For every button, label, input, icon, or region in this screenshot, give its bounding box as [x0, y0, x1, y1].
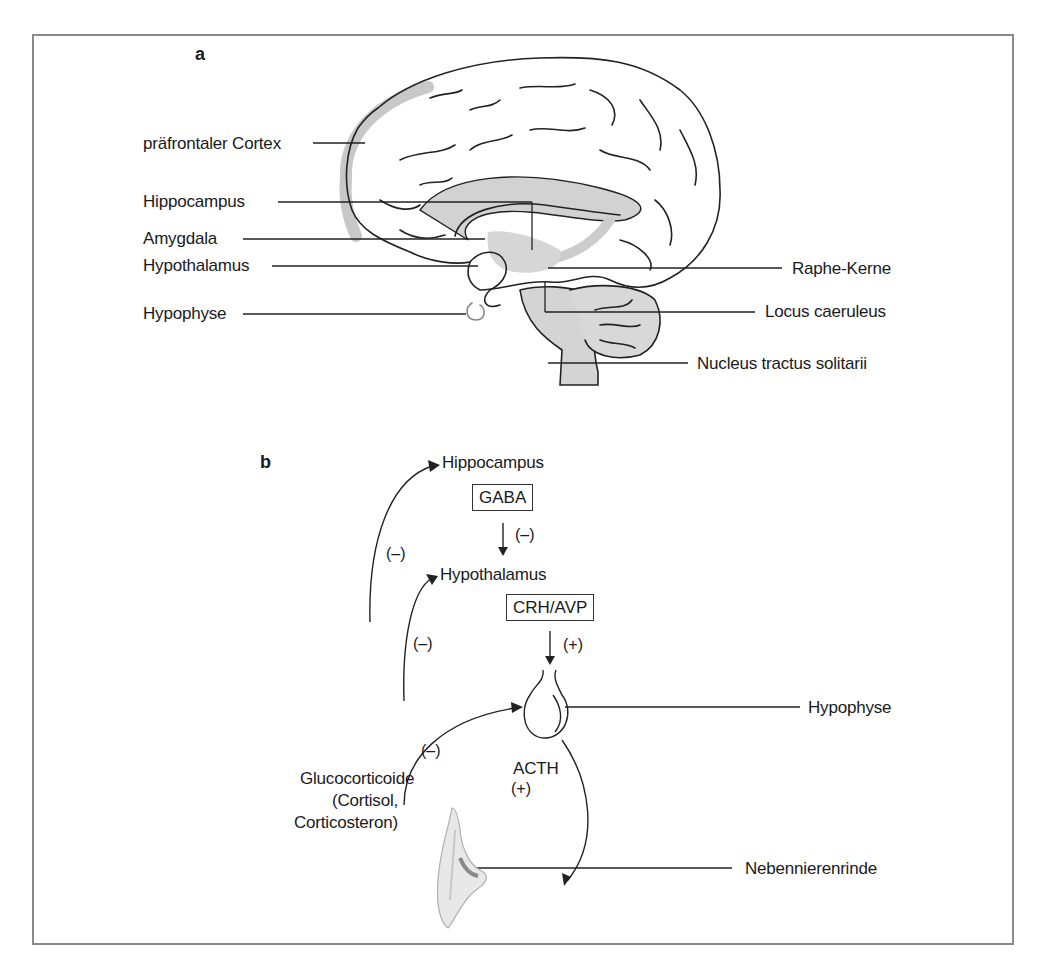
node-hypophyse: Hypophyse — [808, 699, 891, 716]
label-amygdala: Amygdala — [143, 230, 217, 247]
node-nebennierenrinde: Nebennierenrinde — [745, 860, 877, 877]
box-crh-avp: CRH/AVP — [506, 594, 594, 621]
sign-feedback-hypophyse: (–) — [421, 743, 441, 759]
label-acth: ACTH — [513, 760, 558, 777]
node-hypothalamus: Hypothalamus — [440, 566, 546, 583]
brain-illustration — [345, 58, 720, 385]
label-hypothalamus: Hypothalamus — [143, 257, 249, 274]
label-glucocorticoide: Glucocorticoide — [300, 770, 398, 787]
label-glucocorticoide-examples-2: Corticosteron) — [260, 814, 398, 831]
node-hippocampus: Hippocampus — [442, 454, 544, 471]
sign-feedback-hippocampus: (–) — [386, 546, 406, 562]
sign-acth-effect: (+) — [511, 781, 531, 797]
label-glucocorticoide-examples-1: (Cortisol, — [280, 792, 398, 809]
label-hypophyse: Hypophyse — [143, 305, 226, 322]
sign-crh-effect: (+) — [563, 637, 583, 653]
hpa-axis-diagram — [370, 460, 800, 886]
label-locus-caeruleus: Locus caeruleus — [765, 303, 886, 320]
sign-feedback-hypothalamus: (–) — [413, 636, 433, 652]
panel-b-letter: b — [260, 452, 271, 473]
label-raphe-kerne: Raphe-Kerne — [792, 260, 891, 277]
sign-gaba-effect: (–) — [515, 527, 535, 543]
panel-a-letter: a — [195, 44, 205, 65]
label-praefrontaler-cortex: präfrontaler Cortex — [143, 135, 281, 152]
label-nucleus-tractus-solitarii: Nucleus tractus solitarii — [697, 355, 867, 372]
label-hippocampus: Hippocampus — [143, 193, 245, 210]
box-gaba: GABA — [472, 484, 533, 511]
